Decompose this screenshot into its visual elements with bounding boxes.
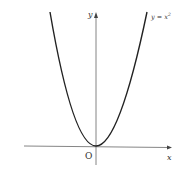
origin-label: O bbox=[85, 151, 92, 161]
y-axis-arrow-icon bbox=[94, 12, 98, 18]
x-axis-arrow-icon bbox=[167, 146, 172, 150]
curve-equation-label: y = x2 bbox=[150, 12, 171, 21]
curve-equation-base: y = x bbox=[150, 13, 168, 21]
y-axis-label: y bbox=[87, 10, 93, 19]
curve-equation-exponent: 2 bbox=[167, 12, 171, 17]
parabola-curve bbox=[50, 12, 147, 146]
x-axis-label: x bbox=[167, 153, 172, 162]
parabola-plot: y x O y = x2 bbox=[0, 0, 184, 175]
